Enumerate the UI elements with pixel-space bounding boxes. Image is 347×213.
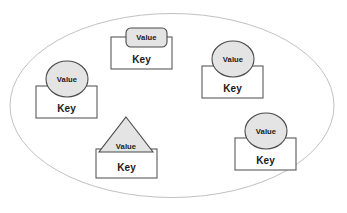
key-label-right-upper: Key — [223, 83, 242, 94]
value-label-top: Value — [136, 33, 156, 42]
value-label-left: Value — [57, 75, 77, 84]
key-label-bottom-center: Key — [117, 162, 136, 173]
key-label-left: Key — [57, 103, 76, 114]
value-label-right-upper: Value — [223, 55, 243, 64]
value-label-right-lower: Value — [256, 127, 276, 136]
value-label-bottom-center: Value — [116, 142, 136, 151]
diagram-canvas: Value Key Value Key Value Key Value Key — [0, 0, 347, 213]
key-label-right-lower: Key — [256, 155, 275, 166]
key-label-top: Key — [132, 54, 151, 65]
key-value-diagram: Value Key Value Key Value Key Value Key — [0, 0, 347, 213]
